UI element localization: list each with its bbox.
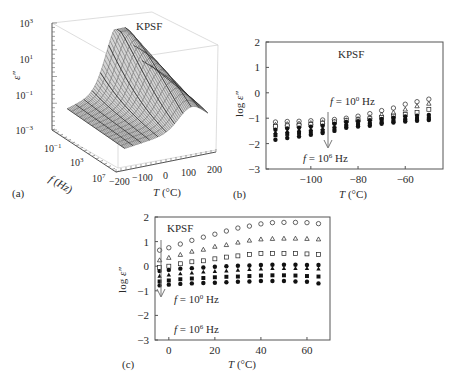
- data-point: [259, 251, 263, 255]
- data-point: [224, 275, 228, 279]
- data-point: [305, 279, 309, 283]
- data-point: [224, 264, 228, 268]
- annotation-low-freq: f = 100 Hz: [174, 293, 219, 305]
- data-point: [201, 276, 205, 280]
- data-point: [320, 131, 324, 135]
- data-point: [317, 252, 321, 256]
- data-point: [293, 266, 297, 270]
- data-point: [316, 221, 320, 225]
- data-point: [247, 252, 251, 256]
- data-point: [282, 236, 286, 240]
- data-point: [282, 266, 286, 270]
- z-tick-label: 10−3: [16, 124, 34, 136]
- data-point: [236, 264, 240, 268]
- data-point: [316, 237, 320, 241]
- data-point: [247, 238, 251, 242]
- data-point: [213, 257, 217, 261]
- data-point: [190, 271, 194, 275]
- data-point: [403, 107, 407, 111]
- f-tick-label: 10−1: [44, 142, 62, 154]
- z-tick-label: 10−1: [16, 89, 34, 101]
- data-point: [259, 274, 263, 278]
- data-point: [282, 251, 286, 255]
- annotation-high-freq: f = 106 Hz: [303, 152, 348, 164]
- f-tick-label: 103: [70, 156, 84, 168]
- data-point: [344, 126, 348, 130]
- data-point: [309, 133, 313, 137]
- panel-c-scatter: 210−1−2−30204060 KPSF log ε″ f = 100 Hz …: [116, 211, 330, 371]
- data-point: [201, 235, 205, 239]
- data-point: [178, 277, 182, 281]
- panel-label-b: (b): [233, 188, 246, 201]
- data-point: [356, 124, 360, 128]
- y-tick-label: −3: [137, 334, 149, 346]
- data-point: [282, 279, 286, 283]
- data-point: [427, 107, 431, 111]
- y-tick-label: 1: [144, 236, 150, 248]
- y-tick-label: −2: [137, 309, 149, 321]
- y-tick-label: 1: [255, 61, 261, 73]
- data-point: [178, 266, 182, 270]
- figure: 103 101 10−1 10−3 ε″ KPSF 10−1 103 107 f…: [0, 0, 452, 380]
- data-point: [190, 266, 194, 270]
- y-tick-label: −2: [248, 138, 260, 150]
- data-point: [305, 236, 309, 240]
- y-tick-label: −3: [248, 163, 260, 175]
- data-point: [273, 138, 277, 142]
- data-point: [201, 281, 205, 285]
- x-tick-label: −60: [397, 173, 415, 185]
- data-point: [167, 273, 171, 277]
- t-tick-label: 100: [181, 167, 196, 178]
- data-point: [247, 267, 251, 271]
- data-point: [190, 249, 194, 253]
- data-point: [259, 279, 263, 283]
- data-point: [297, 134, 301, 138]
- data-point: [167, 255, 171, 259]
- data-point: [403, 119, 407, 123]
- data-point: [236, 226, 240, 230]
- data-point: [305, 274, 309, 278]
- data-point: [201, 265, 205, 269]
- x-tick-label: 40: [255, 344, 267, 356]
- data-point: [190, 260, 194, 264]
- data-point: [305, 266, 309, 270]
- f-axis-label: f (Hz): [47, 172, 76, 196]
- data-point: [236, 240, 240, 244]
- data-point: [293, 220, 297, 224]
- t-tick-label: 0: [163, 170, 168, 181]
- data-point: [293, 279, 297, 283]
- data-point: [270, 236, 274, 240]
- data-point: [316, 266, 320, 270]
- annotation-low-freq: f = 100 Hz: [330, 95, 375, 107]
- data-point: [305, 220, 309, 224]
- data-point: [391, 110, 395, 114]
- data-point: [247, 224, 251, 228]
- data-point: [415, 119, 419, 123]
- data-point: [317, 275, 321, 279]
- data-point: [285, 132, 289, 136]
- x-tick-label: −80: [349, 173, 367, 185]
- data-point: [213, 275, 217, 279]
- data-point: [427, 101, 431, 105]
- x-axis-label: T (°C): [228, 358, 256, 371]
- y-axis-label: log ε″: [116, 267, 128, 293]
- data-point: [224, 229, 228, 233]
- data-point: [293, 274, 297, 278]
- data-point: [190, 238, 194, 242]
- data-point: [305, 252, 309, 256]
- data-point: [167, 278, 171, 282]
- data-point: [167, 282, 171, 286]
- z-axis-label: ε″: [10, 71, 22, 80]
- data-point: [270, 279, 274, 283]
- y-tick-label: 0: [144, 260, 150, 272]
- data-point: [403, 102, 407, 106]
- data-point: [316, 281, 320, 285]
- data-point: [236, 279, 240, 283]
- data-point: [282, 220, 286, 224]
- y-tick-label: 2: [255, 36, 261, 48]
- data-point: [236, 268, 240, 272]
- data-point: [427, 118, 431, 122]
- data-point: [415, 104, 419, 108]
- y-tick-label: −1: [137, 285, 149, 297]
- y-tick-label: 0: [255, 87, 261, 99]
